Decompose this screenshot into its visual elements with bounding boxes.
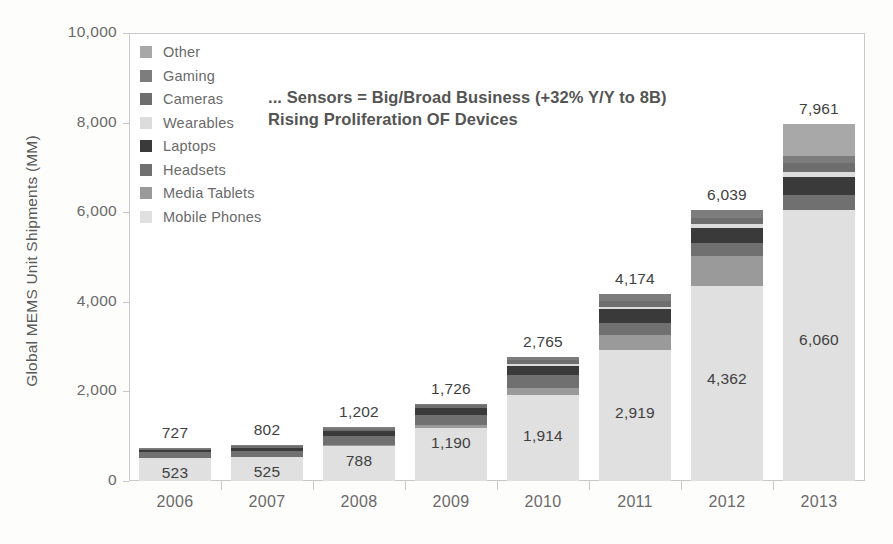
headline-text: ... Sensors = Big/Broad Business (+32% Y… <box>268 86 667 130</box>
bar-segment[interactable] <box>323 436 395 445</box>
x-axis-tick-mark <box>773 481 774 490</box>
y-axis-tick-label: 6,000 <box>33 202 117 220</box>
bar-total-label: 1,726 <box>391 380 511 398</box>
x-axis-tick-mark <box>681 481 682 490</box>
bar-segment[interactable] <box>415 408 487 414</box>
bar-segment[interactable] <box>599 309 671 322</box>
legend-item[interactable]: Cameras <box>140 91 262 107</box>
bar-segment[interactable] <box>507 375 579 388</box>
bar-segment[interactable] <box>323 427 395 429</box>
bar-segment[interactable] <box>231 448 303 451</box>
legend-item-label: Wearables <box>163 115 234 131</box>
legend-item-label: Media Tablets <box>163 185 255 201</box>
bar-segment[interactable] <box>783 177 855 195</box>
bar-segment[interactable] <box>507 357 579 360</box>
legend-item[interactable]: Gaming <box>140 68 262 84</box>
legend-item[interactable]: Headsets <box>140 162 262 178</box>
bar-segment[interactable] <box>783 172 855 177</box>
bar-segment[interactable] <box>691 228 763 243</box>
bar-base-value-label: 4,362 <box>691 370 763 388</box>
bar-base-value-label: 6,060 <box>783 331 855 349</box>
bar-segment[interactable] <box>691 210 763 217</box>
x-axis-tick-label: 2012 <box>682 493 772 511</box>
bar-stack[interactable] <box>691 210 763 481</box>
legend: OtherGamingCamerasWearablesLaptopsHeadse… <box>140 44 262 225</box>
bar-segment[interactable] <box>783 124 855 155</box>
legend-item-label: Headsets <box>163 162 226 178</box>
legend-swatch-icon <box>140 46 152 58</box>
bar-segment[interactable] <box>599 335 671 350</box>
legend-item[interactable]: Other <box>140 44 262 60</box>
bar-total-label: 4,174 <box>575 270 695 288</box>
legend-item-label: Other <box>163 44 200 60</box>
bar-segment[interactable] <box>323 429 395 432</box>
headline-line-1: ... Sensors = Big/Broad Business (+32% Y… <box>268 86 667 108</box>
bar-segment[interactable] <box>783 163 855 172</box>
bar-segment[interactable] <box>231 445 303 446</box>
x-axis-tick-mark <box>497 481 498 490</box>
headline-line-2: Rising Proliferation OF Devices <box>268 108 667 130</box>
bar-base-value-label: 1,190 <box>415 434 487 452</box>
bar-total-label: 2,765 <box>483 333 603 351</box>
bar-segment[interactable] <box>507 364 579 365</box>
bar-segment[interactable] <box>415 425 487 428</box>
y-axis-tick-label: 4,000 <box>33 292 117 310</box>
bar-segment[interactable] <box>139 450 211 452</box>
bar-segment[interactable] <box>599 301 671 307</box>
legend-swatch-icon <box>140 187 152 199</box>
bar-segment[interactable] <box>691 224 763 228</box>
bar-segment[interactable] <box>691 256 763 286</box>
legend-item-label: Cameras <box>163 91 223 107</box>
legend-swatch-icon <box>140 93 152 105</box>
bar-segment[interactable] <box>139 448 211 449</box>
bar-segment[interactable] <box>691 243 763 256</box>
bar-stack[interactable] <box>507 357 579 481</box>
bar-segment[interactable] <box>783 156 855 164</box>
bar-segment[interactable] <box>415 405 487 408</box>
x-axis-tick-mark <box>221 481 222 490</box>
bar-segment[interactable] <box>691 218 763 225</box>
legend-item-label: Laptops <box>163 138 216 154</box>
bar-stack[interactable] <box>783 124 855 481</box>
legend-item[interactable]: Laptops <box>140 138 262 154</box>
bar-segment[interactable] <box>599 307 671 310</box>
bar-segment[interactable] <box>783 195 855 210</box>
bar-segment[interactable] <box>599 323 671 336</box>
legend-swatch-icon <box>140 211 152 223</box>
bar-segment[interactable] <box>599 294 671 300</box>
bar-stack[interactable] <box>599 294 671 481</box>
x-axis-tick-mark <box>405 481 406 490</box>
bar-segment[interactable] <box>139 449 211 450</box>
bar-base-value-label: 788 <box>323 452 395 470</box>
bar-segment[interactable] <box>323 431 395 436</box>
y-axis-tick-label: 8,000 <box>33 113 117 131</box>
bar-segment[interactable] <box>507 366 579 375</box>
bar-segment[interactable] <box>231 446 303 448</box>
bar-segment[interactable] <box>139 452 211 457</box>
x-axis-tick-label: 2013 <box>774 493 864 511</box>
x-axis-tick-label: 2006 <box>130 493 220 511</box>
legend-item-label: Mobile Phones <box>163 209 262 225</box>
legend-swatch-icon <box>140 164 152 176</box>
bar-segment[interactable] <box>507 360 579 364</box>
legend-swatch-icon <box>140 117 152 129</box>
x-axis-tick-mark <box>589 481 590 490</box>
legend-swatch-icon <box>140 140 152 152</box>
legend-item-label: Gaming <box>163 68 215 84</box>
legend-swatch-icon <box>140 70 152 82</box>
legend-item[interactable]: Mobile Phones <box>140 209 262 225</box>
x-axis-tick-label: 2007 <box>222 493 312 511</box>
bar-segment[interactable] <box>231 451 303 458</box>
x-axis-tick-label: 2011 <box>590 493 680 511</box>
bar-total-label: 6,039 <box>667 186 787 204</box>
bar-segment[interactable] <box>507 388 579 395</box>
bar-segment[interactable] <box>415 415 487 425</box>
legend-item[interactable]: Wearables <box>140 115 262 131</box>
x-axis-tick-label: 2009 <box>406 493 496 511</box>
legend-item[interactable]: Media Tablets <box>140 185 262 201</box>
bar-segment[interactable] <box>323 445 395 446</box>
bar-total-label: 802 <box>207 421 327 439</box>
bar-segment[interactable] <box>415 404 487 406</box>
bar-base-value-label: 2,919 <box>599 404 671 422</box>
y-axis-tick-label: 0 <box>33 471 117 489</box>
